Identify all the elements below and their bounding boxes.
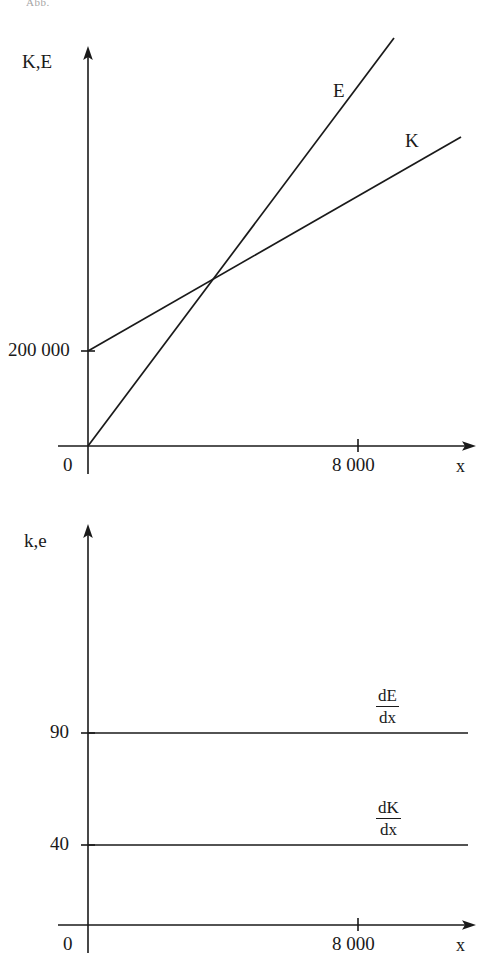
curve-label-dK-dx-denominator: dx xyxy=(376,819,401,839)
lower-y-axis-label: k,e xyxy=(24,531,47,550)
curve-label-dK-dx: dK dx xyxy=(376,798,401,839)
lower-chart-canvas xyxy=(0,0,495,969)
curve-label-dE-dx-denominator: dx xyxy=(376,707,399,727)
curve-label-dE-dx: dE dx xyxy=(376,686,399,727)
lower-y-tick-label-90: 90 xyxy=(50,722,69,741)
figure-container: Abb. K,E 200 000 0 8 000 x E K xyxy=(0,0,495,969)
lower-x-axis-label: x xyxy=(456,936,465,954)
curve-label-dE-dx-numerator: dE xyxy=(376,686,399,707)
lower-origin-label: 0 xyxy=(63,934,73,953)
lower-y-tick-label-40: 40 xyxy=(50,834,69,853)
curve-label-dK-dx-numerator: dK xyxy=(376,798,401,819)
lower-x-tick-label-8000: 8 000 xyxy=(332,934,375,953)
